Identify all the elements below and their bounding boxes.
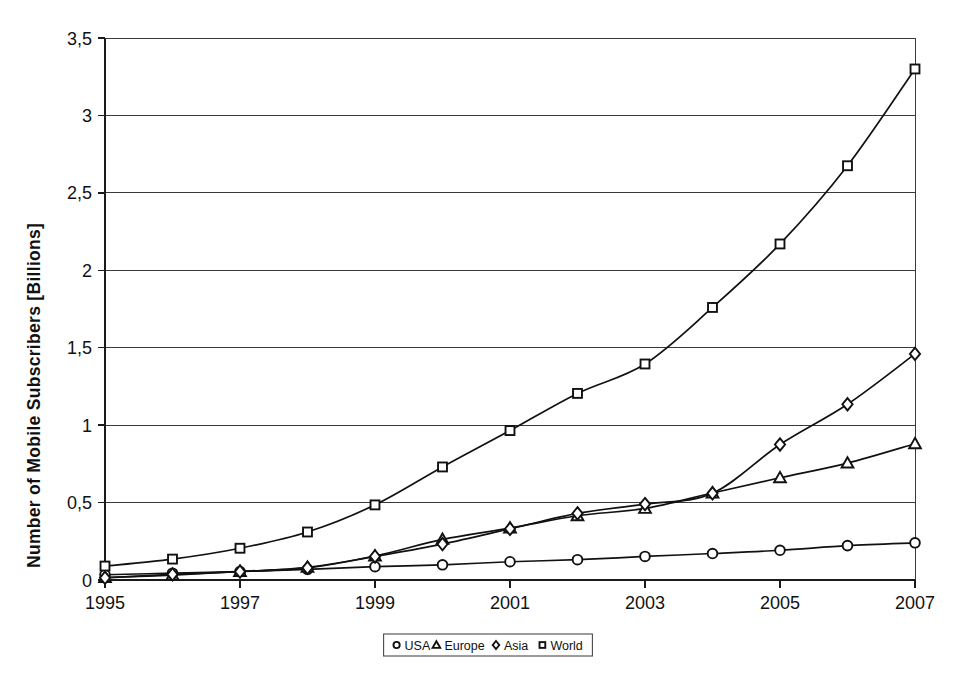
legend-label-usa: USA [405, 639, 431, 653]
marker-square-world-1995 [101, 562, 110, 571]
legend-label-world: World [550, 639, 582, 653]
marker-circle-usa-2005 [775, 545, 785, 555]
x-tick-label: 2005 [760, 593, 800, 613]
y-tick-label: 3,5 [67, 29, 92, 49]
x-tick-label: 1997 [220, 593, 260, 613]
y-tick-label: 2 [82, 261, 92, 281]
marker-circle-usa-2007 [910, 538, 920, 548]
marker-square-world-2000 [438, 462, 447, 471]
chart-container: Number of Mobile Subscribers [Billions] … [0, 0, 968, 686]
marker-circle-usa-2006 [843, 541, 853, 551]
x-tick-label: 2001 [490, 593, 530, 613]
marker-square-world-1996 [168, 555, 177, 564]
y-axis-title: Number of Mobile Subscribers [Billions] [24, 223, 44, 568]
marker-circle-usa-2000 [438, 560, 448, 570]
marker-circle-usa-2004 [708, 549, 718, 559]
y-tick-label: 1 [82, 416, 92, 436]
marker-square-world-1998 [303, 528, 312, 537]
marker-circle-usa-2001 [505, 557, 515, 567]
y-tick-label: 3 [82, 106, 92, 126]
y-tick-label: 2,5 [67, 183, 92, 203]
chart-legend: USAEuropeAsiaWorld [384, 634, 593, 656]
marker-circle-legend-usa [393, 642, 399, 648]
marker-square-world-2001 [506, 426, 515, 435]
marker-circle-usa-2002 [573, 555, 583, 565]
line-chart: Number of Mobile Subscribers [Billions] … [0, 0, 968, 686]
y-tick-label: 0 [82, 571, 92, 591]
x-tick-label: 2003 [625, 593, 665, 613]
y-tick-label: 1,5 [67, 338, 92, 358]
marker-square-world-2006 [843, 161, 852, 170]
marker-square-world-2002 [573, 389, 582, 398]
x-tick-label: 1995 [85, 593, 125, 613]
marker-square-world-2003 [641, 360, 650, 369]
marker-square-legend-world [540, 642, 546, 648]
marker-square-world-2007 [911, 65, 920, 74]
x-tick-label: 2007 [895, 593, 935, 613]
marker-square-world-2005 [776, 239, 785, 248]
x-tick-label: 1999 [355, 593, 395, 613]
chart-background [0, 0, 968, 686]
marker-square-world-2004 [708, 303, 717, 312]
legend-label-europe: Europe [444, 639, 484, 653]
marker-circle-usa-2003 [640, 552, 650, 562]
legend-label-asia: Asia [504, 639, 528, 653]
marker-square-world-1997 [236, 544, 245, 553]
marker-square-world-1999 [371, 500, 380, 509]
y-tick-label: 0,5 [67, 493, 92, 513]
